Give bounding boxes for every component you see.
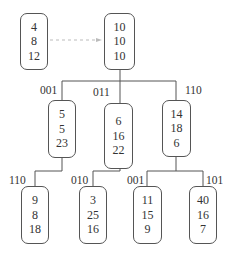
dashed-arrow bbox=[50, 38, 102, 42]
level1-node: 14 18 6 bbox=[162, 100, 191, 157]
node-value: 5 bbox=[59, 122, 65, 137]
detached-node: 4 8 12 bbox=[20, 13, 48, 70]
edge-label: 110 bbox=[9, 174, 26, 186]
node-value: 40 bbox=[197, 193, 209, 208]
node-value: 9 bbox=[145, 222, 151, 237]
level1-node: 5 5 23 bbox=[48, 100, 76, 158]
node-value: 11 bbox=[142, 193, 154, 208]
level2-node: 11 15 9 bbox=[133, 186, 162, 244]
level2-node: 9 8 18 bbox=[21, 186, 49, 244]
root-node: 10 10 10 bbox=[104, 13, 135, 70]
node-value: 4 bbox=[31, 20, 37, 35]
node-value: 15 bbox=[142, 208, 154, 223]
node-value: 16 bbox=[87, 222, 99, 237]
node-value: 23 bbox=[56, 136, 68, 151]
node-value: 3 bbox=[90, 193, 96, 208]
level1-node: 6 16 22 bbox=[104, 103, 133, 169]
edge-label: 011 bbox=[93, 86, 110, 98]
node-value: 10 bbox=[114, 34, 126, 49]
node-value: 9 bbox=[32, 193, 38, 208]
node-value: 16 bbox=[197, 208, 209, 223]
node-value: 5 bbox=[59, 107, 65, 122]
node-value: 25 bbox=[87, 208, 99, 223]
tree-diagram: 4 8 12 10 10 10 001 011 110 5 5 23 6 16 … bbox=[0, 0, 240, 253]
edge-label: 110 bbox=[185, 84, 202, 96]
node-value: 6 bbox=[174, 136, 180, 151]
node-value: 18 bbox=[29, 222, 41, 237]
node-value: 10 bbox=[114, 49, 126, 64]
level2-node: 40 16 7 bbox=[189, 186, 217, 244]
edge-label: 010 bbox=[71, 174, 88, 186]
node-value: 12 bbox=[28, 49, 40, 64]
edge-label: 101 bbox=[206, 174, 223, 186]
node-value: 8 bbox=[31, 34, 37, 49]
node-value: 18 bbox=[171, 121, 183, 136]
node-value: 22 bbox=[113, 143, 125, 158]
level2-node: 3 25 16 bbox=[79, 186, 107, 244]
node-value: 10 bbox=[114, 20, 126, 35]
edge-label: 001 bbox=[40, 84, 57, 96]
edge-label: 001 bbox=[127, 174, 144, 186]
node-value: 7 bbox=[200, 222, 206, 237]
root-connectors bbox=[62, 70, 176, 103]
node-value: 6 bbox=[116, 114, 122, 129]
node-value: 14 bbox=[171, 107, 183, 122]
node-value: 8 bbox=[32, 208, 38, 223]
node-value: 16 bbox=[113, 129, 125, 144]
